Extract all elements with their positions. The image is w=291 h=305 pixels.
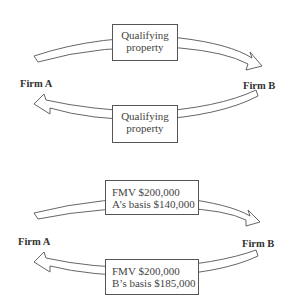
- bottom-transfer-line: property: [113, 122, 177, 134]
- bottom-transfer-box-1: Qualifying property: [112, 105, 178, 143]
- left-party-label-2: Firm A: [18, 236, 50, 247]
- bottom-transfer-box-2: FMV $200,000 B’s basis $185,000: [105, 259, 199, 295]
- top-transfer-line: property: [113, 41, 177, 53]
- bottom-transfer-line: FMV $200,000: [112, 265, 198, 277]
- bottom-transfer-line: B’s basis $185,000: [112, 277, 198, 289]
- top-transfer-box-1: Qualifying property: [112, 24, 178, 61]
- top-transfer-line: FMV $200,000: [112, 186, 198, 198]
- right-party-label-1: Firm B: [243, 80, 275, 91]
- top-transfer-line: Qualifying: [113, 29, 177, 41]
- top-transfer-box-2: FMV $200,000 A’s basis $140,000: [105, 180, 199, 215]
- left-party-label-1: Firm A: [20, 78, 52, 89]
- right-party-label-2: Firm B: [242, 238, 274, 249]
- bottom-transfer-line: Qualifying: [113, 110, 177, 122]
- top-transfer-line: A’s basis $140,000: [112, 198, 198, 210]
